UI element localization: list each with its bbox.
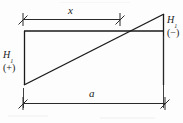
force-label-right: H1 (−) [167,10,179,39]
force-left-subscript: 1 [10,58,13,64]
force-right-sign: (−) [167,28,179,39]
force-label-left: H1 (+) [3,45,15,74]
dimension-label-x: x [68,5,73,16]
influence-line-diagram [0,0,183,123]
diagram-canvas: x a H1 (+) H1 (−) [0,0,183,123]
diagonal-influence-line [24,14,164,85]
force-right-subscript: 1 [174,23,177,29]
dimension-label-a: a [89,88,95,99]
diagram-rectangle [24,31,164,85]
force-left-sign: (+) [3,63,15,74]
